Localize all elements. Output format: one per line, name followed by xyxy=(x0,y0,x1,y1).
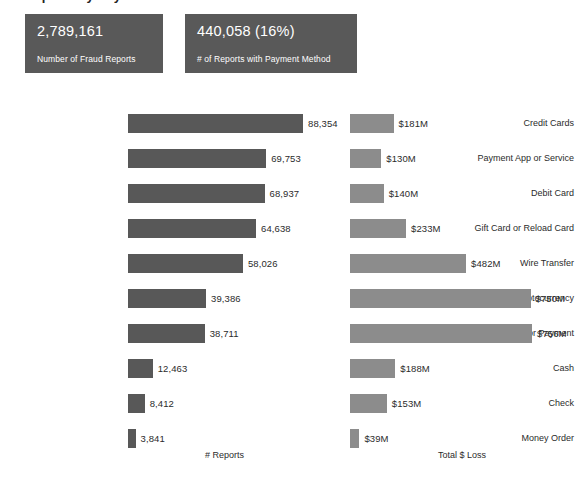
chart-row: Wire Transfer58,026$482M xyxy=(0,246,579,281)
loss-bar[interactable] xyxy=(350,184,384,203)
reports-bar-track: 68,937 xyxy=(128,184,299,203)
category-label: Debit Card xyxy=(457,176,579,211)
reports-bar-value: 3,841 xyxy=(141,433,165,444)
loss-bar-track: $181M xyxy=(350,114,428,133)
axis-caption-row: # Reports Total $ Loss xyxy=(0,450,579,464)
reports-bar-value: 38,711 xyxy=(210,328,239,339)
loss-bar-track: $140M xyxy=(350,184,418,203)
reports-bar[interactable] xyxy=(128,429,136,448)
loss-bar[interactable] xyxy=(350,219,406,238)
kpi-card-reports-with-payment-method: 440,058 (16%) # of Reports with Payment … xyxy=(185,14,357,73)
reports-bar-value: 88,354 xyxy=(308,118,338,129)
reports-bar-track: 88,354 xyxy=(128,114,338,133)
category-label: Payment App or Service xyxy=(457,141,579,176)
reports-bar-value: 69,753 xyxy=(271,153,301,164)
reports-bar[interactable] xyxy=(128,254,243,273)
axis-caption-reports: # Reports xyxy=(205,450,244,460)
loss-bar-value: $140M xyxy=(389,188,419,199)
reports-bar-value: 39,386 xyxy=(211,293,241,304)
loss-bar-value: $482M xyxy=(471,258,501,269)
chart-row: Check8,412$153M xyxy=(0,386,579,421)
loss-bar-track: $482M xyxy=(350,254,501,273)
kpi-value: 2,789,161 xyxy=(37,23,151,40)
loss-bar-value: $153M xyxy=(392,398,422,409)
category-label: Gift Card or Reload Card xyxy=(457,211,579,246)
kpi-label: Number of Fraud Reports xyxy=(37,54,151,64)
loss-bar-track: $153M xyxy=(350,394,421,413)
category-label: Cash xyxy=(457,351,579,386)
chart-row: Cash12,463$188M xyxy=(0,351,579,386)
reports-bar-value: 12,463 xyxy=(158,363,188,374)
bar-chart-pair: Credit Cards88,354$181MPayment App or Se… xyxy=(0,106,579,456)
loss-bar[interactable] xyxy=(350,324,532,343)
chart-row: Cryptocurrency39,386$750M xyxy=(0,281,579,316)
loss-bar-track: $756M xyxy=(350,324,567,343)
reports-bar-track: 3,841 xyxy=(128,429,165,448)
reports-bar[interactable] xyxy=(128,394,145,413)
reports-bar-track: 69,753 xyxy=(128,149,301,168)
reports-bar-track: 12,463 xyxy=(128,359,187,378)
category-label: Check xyxy=(457,386,579,421)
reports-bar[interactable] xyxy=(128,114,303,133)
reports-bar[interactable] xyxy=(128,184,265,203)
loss-bar-track: $130M xyxy=(350,149,416,168)
loss-bar-value: $130M xyxy=(386,153,416,164)
reports-bar[interactable] xyxy=(128,149,266,168)
loss-bar[interactable] xyxy=(350,359,395,378)
loss-bar-value: $750M xyxy=(536,293,566,304)
loss-bar-value: $181M xyxy=(399,118,429,129)
reports-bar[interactable] xyxy=(128,219,256,238)
kpi-card-row: 2,789,161 Number of Fraud Reports 440,05… xyxy=(25,14,357,73)
loss-bar-track: $233M xyxy=(350,219,441,238)
kpi-value: 440,058 (16%) xyxy=(197,23,345,40)
reports-bar-value: 64,638 xyxy=(261,223,291,234)
reports-bar[interactable] xyxy=(128,289,206,308)
loss-bar[interactable] xyxy=(350,289,531,308)
reports-bar-track: 39,386 xyxy=(128,289,241,308)
chart-row: Debit Card68,937$140M xyxy=(0,176,579,211)
reports-bar-track: 64,638 xyxy=(128,219,291,238)
reports-bar-track: 8,412 xyxy=(128,394,174,413)
chart-row: Gift Card or Reload Card64,638$233M xyxy=(0,211,579,246)
reports-bar-value: 58,026 xyxy=(248,258,278,269)
loss-bar[interactable] xyxy=(350,429,359,448)
reports-bar-track: 58,026 xyxy=(128,254,278,273)
loss-bar-value: $233M xyxy=(411,223,441,234)
loss-bar[interactable] xyxy=(350,114,394,133)
reports-bar[interactable] xyxy=(128,359,153,378)
kpi-label: # of Reports with Payment Method xyxy=(197,54,345,64)
reports-bar-track: 38,711 xyxy=(128,324,239,343)
loss-bar[interactable] xyxy=(350,254,466,273)
loss-bar[interactable] xyxy=(350,149,381,168)
page-title: Reports by Payment Method xyxy=(25,0,203,3)
kpi-card-fraud-reports: 2,789,161 Number of Fraud Reports xyxy=(25,14,163,73)
axis-caption-loss: Total $ Loss xyxy=(438,450,486,460)
loss-bar-value: $39M xyxy=(364,433,388,444)
chart-row: Bank Transfer or Payment38,711$756M xyxy=(0,316,579,351)
loss-bar-track: $39M xyxy=(350,429,389,448)
reports-bar-value: 68,937 xyxy=(270,188,300,199)
reports-bar[interactable] xyxy=(128,324,205,343)
loss-bar-track: $750M xyxy=(350,289,565,308)
chart-row: Payment App or Service69,753$130M xyxy=(0,141,579,176)
loss-bar-value: $756M xyxy=(537,328,567,339)
loss-bar-track: $188M xyxy=(350,359,430,378)
chart-row: Credit Cards88,354$181M xyxy=(0,106,579,141)
reports-bar-value: 8,412 xyxy=(150,398,174,409)
loss-bar-value: $188M xyxy=(400,363,430,374)
loss-bar[interactable] xyxy=(350,394,387,413)
category-label: Credit Cards xyxy=(457,106,579,141)
